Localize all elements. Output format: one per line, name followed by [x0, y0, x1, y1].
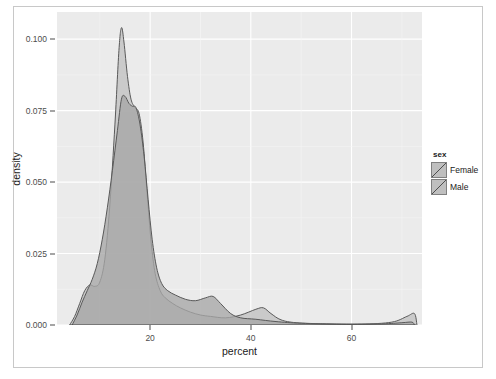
legend-label: Female	[450, 165, 478, 175]
y-axis-title: density	[9, 12, 23, 325]
y-tick-mark	[50, 253, 55, 254]
x-tick-mark	[150, 325, 151, 330]
x-tick-mark	[351, 325, 352, 330]
x-tick-label: 60	[347, 333, 356, 343]
legend: sex FemaleMale	[431, 150, 487, 195]
y-tick-label: 0.050	[26, 177, 47, 187]
y-axis-title-label: density	[10, 152, 22, 185]
legend-label: Male	[450, 182, 468, 192]
plot-panel	[57, 12, 422, 325]
y-tick-mark	[50, 325, 55, 326]
legend-item-male[interactable]: Male	[431, 178, 487, 195]
legend-item-female[interactable]: Female	[431, 161, 487, 178]
density-area-male	[72, 95, 414, 325]
y-tick-label: 0.000	[26, 320, 47, 330]
legend-key-swatch	[431, 162, 447, 178]
y-tick-label: 0.100	[26, 34, 47, 44]
y-tick-label: 0.075	[26, 106, 47, 116]
y-tick-mark	[50, 110, 55, 111]
plot-area	[57, 12, 422, 325]
x-tick-label: 20	[145, 333, 154, 343]
x-axis-title: percent	[57, 345, 422, 357]
y-tick-label: 0.025	[26, 249, 47, 259]
x-tick-label: 40	[246, 333, 255, 343]
legend-title: sex	[433, 150, 487, 159]
x-axis: 204060	[57, 325, 422, 347]
legend-entries: FemaleMale	[431, 161, 487, 195]
x-tick-mark	[250, 325, 251, 330]
density-plot-figure: 0.0000.0250.0500.0750.100 density 204060…	[0, 0, 496, 379]
legend-key-swatch	[431, 179, 447, 195]
y-tick-mark	[50, 39, 55, 40]
y-tick-mark	[50, 182, 55, 183]
